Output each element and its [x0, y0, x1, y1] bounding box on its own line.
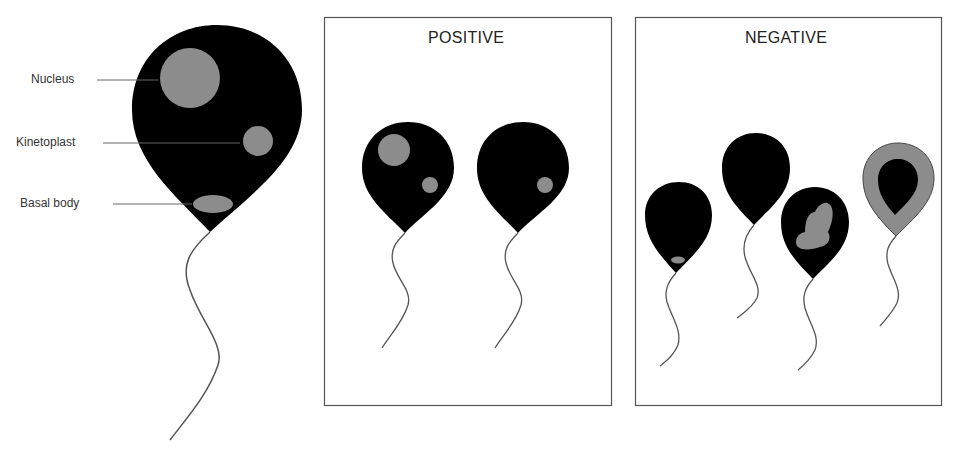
cell-body: [722, 133, 790, 225]
positive-cell-2: [477, 122, 569, 348]
kinetoplast: [537, 177, 553, 193]
flagellum: [170, 232, 219, 440]
negative-cell-3: [781, 187, 849, 370]
flagellum: [798, 279, 816, 370]
negative-cell-1: [645, 182, 712, 366]
negative-cell-2: [722, 133, 790, 318]
cell-body: [477, 122, 569, 233]
positive-panel-border: [325, 18, 612, 406]
label-basal-body: Basal body: [20, 196, 79, 210]
flagellum: [880, 236, 898, 326]
flagellum: [660, 273, 679, 366]
flagellum: [495, 233, 522, 348]
basal-body: [193, 195, 233, 213]
negative-panel-title: NEGATIVE: [745, 29, 827, 47]
positive-cell-1: [362, 122, 454, 348]
flagellum: [737, 225, 758, 318]
negative-cell-4: [863, 143, 934, 326]
basal-body: [671, 257, 685, 264]
label-nucleus: Nucleus: [31, 72, 74, 86]
reference-cell: [97, 25, 302, 440]
nucleus: [378, 134, 410, 166]
flagellum: [382, 233, 409, 348]
label-kinetoplast: Kinetoplast: [16, 135, 75, 149]
diagram-canvas: [0, 0, 958, 454]
kinetoplast: [422, 177, 438, 193]
cell-body: [362, 122, 454, 233]
kinetoplast: [243, 126, 273, 156]
positive-panel-title: POSITIVE: [428, 29, 504, 47]
nucleus: [160, 48, 220, 108]
